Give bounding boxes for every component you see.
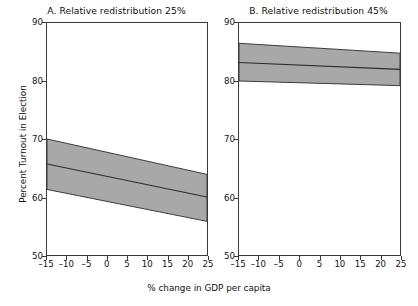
marginal-effects-figure: A. Relative redistribution 25% 506070809… (0, 0, 418, 306)
y-axis-tick-label: 70 (224, 134, 235, 144)
x-axis-tick-label: 0 (296, 259, 301, 269)
x-axis-tick-label: 5 (124, 259, 129, 269)
y-axis-tick-label: 80 (32, 76, 43, 86)
x-axis-tick-label: –5 (274, 259, 284, 269)
x-axis-tick-label: –15 (38, 259, 53, 269)
y-axis-label: Percent Turnout in Election (18, 69, 28, 219)
x-axis-tick-label: –5 (82, 259, 92, 269)
x-axis-tick-label: 25 (396, 259, 407, 269)
panel-b-plot-svg (239, 23, 400, 255)
x-axis-tick-label: –15 (230, 259, 245, 269)
y-axis-tick-label: 80 (224, 76, 235, 86)
y-axis-tick-label: 60 (32, 193, 43, 203)
x-axis-tick-label: 25 (203, 259, 214, 269)
panel-a-plot-svg (47, 23, 207, 255)
panel-b-title: B. Relative redistribution 45% (215, 5, 418, 16)
x-axis-tick-label: 10 (142, 259, 153, 269)
panel-a-plot-area (46, 22, 208, 256)
y-axis-tick-label: 60 (224, 193, 235, 203)
panel-b: B. Relative redistribution 45% 506070809… (215, 0, 418, 306)
x-axis-label: % change in GDP per capita (0, 283, 418, 293)
panel-a-title: A. Relative redistribution 25% (0, 5, 215, 16)
y-axis-tick-label: 70 (32, 134, 43, 144)
x-axis-tick-label: 15 (355, 259, 366, 269)
x-axis-tick-label: 15 (162, 259, 173, 269)
x-axis-tick-label: 10 (334, 259, 345, 269)
confidence-band (239, 43, 400, 85)
panel-b-plot-area (238, 22, 401, 256)
x-axis-tick-label: 20 (182, 259, 193, 269)
x-axis-tick-label: 0 (104, 259, 109, 269)
x-axis-tick-label: –10 (59, 259, 74, 269)
y-axis-tick-label: 90 (32, 17, 43, 27)
x-axis-tick-label: 5 (317, 259, 322, 269)
x-axis-tick-label: 20 (375, 259, 386, 269)
x-axis-tick-label: –10 (251, 259, 266, 269)
y-axis-tick-label: 90 (224, 17, 235, 27)
panel-a: A. Relative redistribution 25% 506070809… (0, 0, 215, 306)
